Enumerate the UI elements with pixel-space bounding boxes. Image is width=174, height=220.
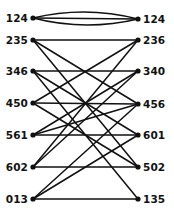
node-left-561 — [30, 132, 35, 137]
node-label-right-456: 456 — [143, 98, 165, 110]
node-right-340 — [135, 68, 140, 73]
node-right-601 — [135, 132, 140, 137]
node-right-502 — [135, 164, 140, 169]
bipartite-graph-figure: 1242353464505616020131242363404566015021… — [0, 0, 174, 220]
node-left-346 — [30, 68, 35, 73]
node-label-right-124: 124 — [143, 13, 165, 25]
node-right-124 — [135, 16, 140, 21]
node-right-456 — [135, 101, 140, 106]
node-label-right-340: 340 — [143, 65, 165, 77]
node-left-602 — [30, 164, 35, 169]
node-label-right-502: 502 — [143, 161, 165, 173]
node-right-135 — [135, 196, 140, 201]
node-label-left-561: 561 — [6, 129, 28, 141]
edges-layer — [33, 12, 138, 199]
node-left-450 — [30, 100, 35, 105]
edge-124-124 — [33, 18, 138, 19]
node-left-235 — [30, 37, 35, 42]
node-label-left-346: 346 — [6, 65, 28, 77]
node-left-013 — [30, 196, 35, 201]
node-label-left-013: 013 — [6, 193, 28, 205]
node-label-left-124: 124 — [6, 12, 28, 24]
node-left-124 — [30, 15, 35, 20]
node-label-right-236: 236 — [143, 34, 165, 46]
graph-canvas: 1242353464505616020131242363404566015021… — [0, 0, 174, 220]
node-label-left-602: 602 — [6, 161, 28, 173]
node-label-right-135: 135 — [143, 193, 165, 205]
node-label-left-235: 235 — [6, 34, 28, 46]
node-label-right-601: 601 — [143, 129, 165, 141]
node-right-236 — [135, 37, 140, 42]
node-label-left-450: 450 — [6, 97, 28, 109]
